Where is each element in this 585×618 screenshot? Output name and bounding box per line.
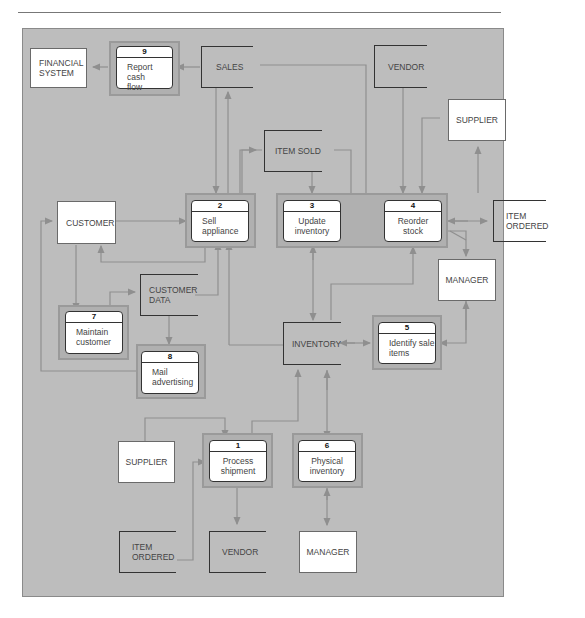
process-label: Report cashflow xyxy=(117,58,172,92)
process-number: 1 xyxy=(210,441,266,452)
store-label: VENDOR xyxy=(222,547,258,557)
store-sales[interactable]: SALES xyxy=(201,46,253,88)
store-item-sold[interactable]: ITEM SOLD xyxy=(264,130,322,172)
store-vendor-bottom[interactable]: VENDOR xyxy=(209,531,266,573)
store-label: ITEM SOLD xyxy=(275,146,321,156)
process-label: Sellappliance xyxy=(192,212,248,236)
entity-label: SUPPLIER xyxy=(125,457,167,467)
store-label: CUSTOMER xyxy=(149,285,198,295)
store-label: SALES xyxy=(216,62,243,72)
entity-supplier-bottom[interactable]: SUPPLIER xyxy=(118,441,175,483)
process-number: 2 xyxy=(192,201,248,212)
store-label: INVENTORY xyxy=(292,339,341,349)
process-number: 6 xyxy=(299,441,355,452)
process-3-update-inventory[interactable]: 3 Updateinventory xyxy=(283,200,341,242)
process-9-report-cash-flow[interactable]: 9 Report cashflow xyxy=(116,46,173,89)
entity-label: CUSTOMER xyxy=(66,218,115,228)
store-label: ITEM xyxy=(132,542,152,552)
process-number: 3 xyxy=(284,201,340,212)
entity-financial-system[interactable]: FINANCIALSYSTEM xyxy=(30,48,87,88)
process-1-process-shipment[interactable]: 1 Processshipment xyxy=(209,440,267,482)
process-label: Physicalinventory xyxy=(299,452,355,476)
process-number: 5 xyxy=(379,323,435,334)
store-label: ITEM xyxy=(506,211,526,221)
entity-label: SYSTEM xyxy=(39,68,74,78)
process-number: 9 xyxy=(117,47,172,58)
store-item-ordered-right[interactable]: ITEMORDERED xyxy=(493,200,546,242)
store-label: ORDERED xyxy=(506,221,549,231)
entity-supplier-top[interactable]: SUPPLIER xyxy=(448,99,506,141)
store-customer-data[interactable]: CUSTOMERDATA xyxy=(140,274,198,316)
entity-label: MANAGER xyxy=(307,547,350,557)
entity-label: SUPPLIER xyxy=(456,115,498,125)
process-6-physical-inventory[interactable]: 6 Physicalinventory xyxy=(298,440,356,482)
entity-customer[interactable]: CUSTOMER xyxy=(57,201,116,244)
entity-label: FINANCIAL xyxy=(39,58,83,68)
process-label: Maintaincustomer xyxy=(66,323,122,347)
process-label: Updateinventory xyxy=(284,212,340,236)
process-8-mail-advertising[interactable]: 8 Mailadvertising xyxy=(141,351,199,394)
entity-manager-mid[interactable]: MANAGER xyxy=(438,259,496,301)
process-7-maintain-customer[interactable]: 7 Maintaincustomer xyxy=(65,311,123,354)
store-label: DATA xyxy=(149,295,170,305)
process-label: Identify saleitems xyxy=(379,334,435,358)
store-label: ORDERED xyxy=(132,552,175,562)
process-4-reorder-stock[interactable]: 4 Reorderstock xyxy=(384,200,442,242)
process-2-sell-appliance[interactable]: 2 Sellappliance xyxy=(191,200,249,242)
entity-manager-bottom[interactable]: MANAGER xyxy=(299,531,357,573)
entity-label: MANAGER xyxy=(446,275,489,285)
process-number: 8 xyxy=(142,352,198,363)
process-5-identify-sale-items[interactable]: 5 Identify saleitems xyxy=(378,322,436,364)
process-number: 4 xyxy=(385,201,441,212)
process-label: Reorderstock xyxy=(385,212,441,236)
store-inventory[interactable]: INVENTORY xyxy=(283,322,341,365)
process-label: Mailadvertising xyxy=(142,363,198,387)
process-number: 7 xyxy=(66,312,122,323)
store-label: VENDOR xyxy=(388,62,424,72)
store-vendor-top[interactable]: VENDOR xyxy=(374,45,427,88)
process-label: Processshipment xyxy=(210,452,266,476)
store-item-ordered-bottom[interactable]: ITEMORDERED xyxy=(119,531,176,573)
